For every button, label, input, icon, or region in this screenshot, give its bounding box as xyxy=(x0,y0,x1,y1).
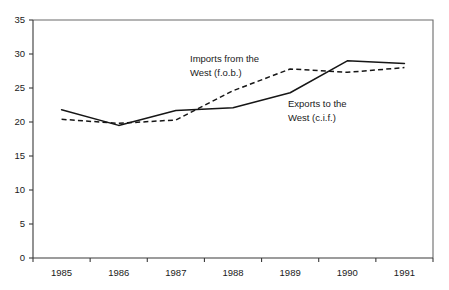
x-tick-label: 1988 xyxy=(222,267,243,278)
y-tick-label: 20 xyxy=(14,116,25,127)
imports-annotation-line2: West (f.o.b.) xyxy=(190,67,242,78)
x-tick-label: 1991 xyxy=(394,267,415,278)
exports-annotation-line2: West (c.i.f.) xyxy=(288,112,336,123)
x-tick-label: 1989 xyxy=(280,267,301,278)
y-tick-label: 10 xyxy=(14,184,25,195)
imports-annotation-line1: Imports from the xyxy=(190,53,259,64)
line-chart: 05101520253035 1985198619871988198919901… xyxy=(0,0,449,290)
y-tick-label: 0 xyxy=(20,252,25,263)
x-tick-label: 1986 xyxy=(108,267,129,278)
x-tick-label: 1985 xyxy=(51,267,72,278)
y-tick-label: 5 xyxy=(20,218,25,229)
exports-annotation-line1: Exports to the xyxy=(288,98,347,109)
y-tick-label: 35 xyxy=(14,14,25,25)
chart-container: 05101520253035 1985198619871988198919901… xyxy=(0,0,449,290)
y-tick-label: 30 xyxy=(14,48,25,59)
x-tick-label: 1990 xyxy=(337,267,358,278)
x-tick-label: 1987 xyxy=(165,267,186,278)
chart-background xyxy=(0,0,449,290)
y-tick-label: 15 xyxy=(14,150,25,161)
y-tick-label: 25 xyxy=(14,82,25,93)
